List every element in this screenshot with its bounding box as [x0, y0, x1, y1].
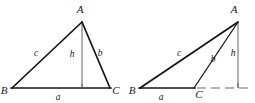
acute-vertex-label-a: A — [76, 3, 84, 15]
obtuse-triangle-group: A B C c b a h — [129, 3, 251, 102]
acute-altitude-label-h: h — [70, 49, 75, 59]
obtuse-altitude-label-h: h — [231, 48, 236, 58]
obtuse-side-label-c: c — [177, 48, 182, 58]
obtuse-vertex-label-a: A — [230, 3, 238, 15]
acute-side-label-b: b — [98, 48, 103, 58]
acute-vertex-label-b: B — [1, 84, 8, 96]
geometry-canvas: A B C c b a h A B C — [0, 0, 255, 103]
acute-triangle-group: A B C c b a h — [1, 3, 121, 102]
acute-side-label-a: a — [56, 92, 61, 102]
obtuse-side-label-a: a — [159, 92, 164, 102]
obtuse-side-c-edge — [140, 22, 238, 88]
obtuse-side-label-b: b — [211, 54, 216, 64]
acute-vertex-label-c: C — [112, 84, 120, 96]
obtuse-vertex-label-b: B — [129, 84, 136, 96]
acute-side-b-edge — [82, 22, 110, 88]
acute-side-label-c: c — [34, 48, 39, 58]
geometry-figure: A B C c b a h A B C — [0, 0, 255, 103]
obtuse-vertex-label-c: C — [195, 88, 203, 100]
